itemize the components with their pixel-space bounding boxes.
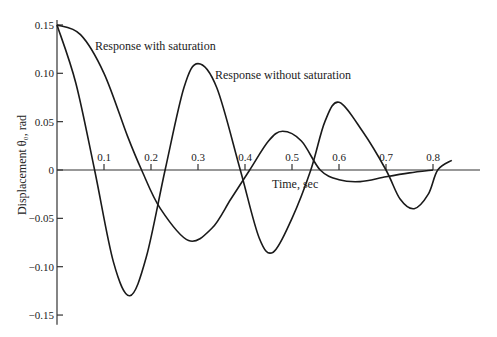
x-tick-label: 0.5 — [285, 151, 299, 163]
y-tick-label: 0 — [49, 164, 55, 176]
x-tick-label: 0.6 — [332, 151, 346, 163]
x-tick-label: 0.3 — [191, 151, 205, 163]
y-tick-label: −0.10 — [29, 261, 55, 273]
y-tick-label: −0.05 — [29, 212, 55, 224]
chart: 0.150.100.050−0.05−0.10−0.150.10.20.30.4… — [0, 0, 497, 337]
x-tick-label: 0.2 — [144, 151, 158, 163]
x-axis-label: Time, sec — [272, 177, 318, 191]
x-tick-label: 0.4 — [238, 151, 252, 163]
curve-with-saturation — [57, 25, 433, 241]
annotation-with-saturation: Response with saturation — [95, 39, 216, 53]
y-tick-label: 0.10 — [35, 67, 55, 79]
x-tick-label: 0.7 — [379, 151, 393, 163]
y-tick-label: −0.15 — [29, 309, 55, 321]
x-tick-label: 0.1 — [97, 151, 111, 163]
y-axis-label: Displacement θ₀, rad — [15, 115, 29, 215]
annotation-without-saturation: Response without saturation — [215, 68, 351, 82]
y-tick-label: 0.05 — [35, 116, 55, 128]
y-tick-label: 0.15 — [35, 19, 55, 31]
x-tick-label: 0.8 — [426, 151, 440, 163]
